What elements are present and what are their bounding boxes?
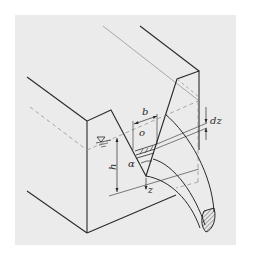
notch-top-dash — [177, 79, 199, 97]
b-arrowhead-left — [134, 121, 139, 124]
h-base-line — [109, 169, 199, 196]
nappe-lower-curve — [146, 176, 200, 228]
label-o: o — [139, 127, 145, 138]
nappe-inner-curve — [153, 159, 205, 225]
upstream-water-dash — [30, 107, 87, 150]
left-top-edge — [27, 77, 87, 121]
label-b: b — [142, 106, 148, 117]
water-level-symbol — [96, 137, 111, 147]
h-arrowhead-top — [116, 138, 119, 142]
weir-diagram: b o dz h α z — [0, 0, 253, 263]
strip-line-1 — [135, 144, 157, 151]
b-arrowhead-right — [153, 116, 157, 119]
h-arrowhead-bottom — [116, 188, 119, 192]
back-edge-line — [103, 26, 198, 100]
label-h: h — [107, 164, 118, 170]
label-alpha: α — [128, 158, 135, 169]
nappe-outer-curve — [165, 114, 214, 212]
label-dz: dz — [210, 115, 222, 126]
nappe-section-hatched — [202, 208, 215, 232]
right-top-edge — [140, 26, 199, 71]
label-z: z — [147, 185, 153, 195]
bottom-left-edge — [27, 191, 87, 233]
dz-arrowhead-top — [205, 119, 208, 123]
bottom-right-edge — [87, 195, 176, 233]
strip-hatch-b — [145, 148, 148, 153]
